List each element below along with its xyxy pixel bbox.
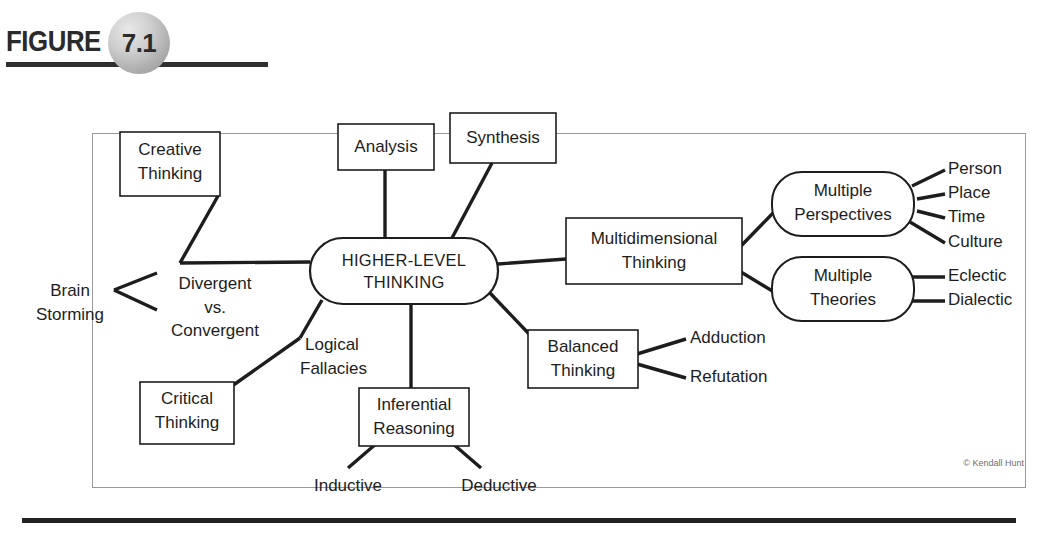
node-creative-thinking-line2: Thinking bbox=[138, 164, 202, 183]
edge-fallacies-critical bbox=[232, 338, 300, 386]
node-place[interactable]: Place bbox=[948, 183, 991, 202]
node-multidim-line1: Multidimensional bbox=[591, 229, 718, 248]
edge-perspectives-person bbox=[912, 170, 945, 186]
node-critical-thinking-line1: Critical bbox=[161, 389, 213, 408]
node-center-line2: THINKING bbox=[363, 273, 444, 291]
node-creative-thinking[interactable]: Creative Thinking bbox=[120, 132, 220, 196]
node-person-label: Person bbox=[948, 159, 1002, 178]
edge-perspectives-time bbox=[917, 211, 945, 218]
edge-multidim-theories bbox=[741, 272, 774, 292]
node-balanced-line2: Thinking bbox=[551, 361, 615, 380]
node-culture[interactable]: Culture bbox=[948, 232, 1003, 251]
edge-multidim-perspectives bbox=[741, 212, 774, 246]
edge-center-fallacies bbox=[300, 300, 322, 338]
node-balanced-line1: Balanced bbox=[548, 337, 619, 356]
node-analysis-label: Analysis bbox=[354, 137, 417, 156]
node-person[interactable]: Person bbox=[948, 159, 1002, 178]
node-divergent-line1: Divergent bbox=[179, 274, 252, 293]
node-center-line1: HIGHER-LEVEL bbox=[342, 251, 467, 269]
node-critical-thinking[interactable]: Critical Thinking bbox=[140, 382, 234, 444]
node-synthesis[interactable]: Synthesis bbox=[450, 113, 556, 163]
node-theories-line2: Theories bbox=[810, 290, 876, 309]
figure-bottom-rule bbox=[22, 518, 1016, 523]
node-refutation[interactable]: Refutation bbox=[690, 367, 768, 386]
edge-synthesis-center bbox=[452, 163, 492, 238]
node-inferential-line2: Reasoning bbox=[373, 419, 454, 438]
node-synthesis-label: Synthesis bbox=[466, 128, 540, 147]
node-eclectic-label: Eclectic bbox=[948, 266, 1007, 285]
node-place-label: Place bbox=[948, 183, 991, 202]
edge-brainstorming-lower bbox=[114, 290, 157, 310]
node-dialectic-label: Dialectic bbox=[948, 290, 1013, 309]
node-multidimensional-thinking[interactable]: Multidimensional Thinking bbox=[566, 218, 742, 284]
node-adduction[interactable]: Adduction bbox=[690, 328, 766, 347]
node-theories-line1: Multiple bbox=[814, 266, 873, 285]
edge-brainstorming-upper bbox=[114, 273, 157, 290]
edge-perspectives-culture bbox=[910, 222, 945, 243]
node-brain-storming-line1: Brain bbox=[50, 281, 90, 300]
node-inferential-line1: Inferential bbox=[377, 395, 452, 414]
node-time-label: Time bbox=[948, 207, 985, 226]
node-adduction-label: Adduction bbox=[690, 328, 766, 347]
node-culture-label: Culture bbox=[948, 232, 1003, 251]
edge-center-balanced bbox=[490, 293, 531, 336]
node-eclectic[interactable]: Eclectic bbox=[948, 266, 1007, 285]
node-divergent-line2: vs. bbox=[204, 298, 226, 317]
node-multiple-theories[interactable]: Multiple Theories bbox=[772, 257, 914, 321]
node-brain-storming[interactable]: Brain Storming bbox=[36, 281, 104, 324]
node-critical-thinking-line2: Thinking bbox=[155, 413, 219, 432]
node-time[interactable]: Time bbox=[948, 207, 985, 226]
node-balanced-thinking[interactable]: Balanced Thinking bbox=[528, 330, 638, 388]
node-deductive-label: Deductive bbox=[461, 476, 537, 495]
node-analysis[interactable]: Analysis bbox=[338, 124, 434, 170]
edge-balanced-refutation bbox=[637, 364, 686, 378]
node-logical-fallacies[interactable]: Logical Fallacies bbox=[300, 335, 367, 378]
node-deductive[interactable]: Deductive bbox=[461, 476, 537, 495]
node-divergent-vs-convergent[interactable]: Divergent vs. Convergent bbox=[171, 274, 259, 340]
edge-divergent-to-center bbox=[180, 262, 310, 263]
node-perspectives-line1: Multiple bbox=[814, 181, 873, 200]
edge-perspectives-place bbox=[917, 194, 945, 199]
node-creative-thinking-line1: Creative bbox=[138, 140, 201, 159]
node-logical-fallacies-line2: Fallacies bbox=[300, 359, 367, 378]
node-inductive[interactable]: Inductive bbox=[314, 476, 382, 495]
node-multiple-perspectives[interactable]: Multiple Perspectives bbox=[772, 172, 914, 236]
edge-center-multidim bbox=[498, 259, 566, 264]
node-dialectic[interactable]: Dialectic bbox=[948, 290, 1013, 309]
node-inductive-label: Inductive bbox=[314, 476, 382, 495]
edge-creative-to-divergent bbox=[180, 196, 218, 263]
node-refutation-label: Refutation bbox=[690, 367, 768, 386]
node-brain-storming-line2: Storming bbox=[36, 305, 104, 324]
node-perspectives-line2: Perspectives bbox=[794, 205, 891, 224]
figure-page: FIGURE 7.1 bbox=[0, 0, 1038, 540]
node-inferential-reasoning[interactable]: Inferential Reasoning bbox=[359, 388, 469, 446]
edge-balanced-adduction bbox=[637, 339, 686, 354]
node-multidim-line2: Thinking bbox=[622, 253, 686, 272]
node-logical-fallacies-line1: Logical bbox=[305, 335, 359, 354]
copyright-credit: © Kendall Hunt bbox=[963, 458, 1024, 468]
node-divergent-line3: Convergent bbox=[171, 321, 259, 340]
concept-map: Creative Thinking Analysis Synthesis Bra… bbox=[0, 0, 1038, 540]
node-higher-level-thinking[interactable]: HIGHER-LEVEL THINKING bbox=[310, 238, 498, 304]
